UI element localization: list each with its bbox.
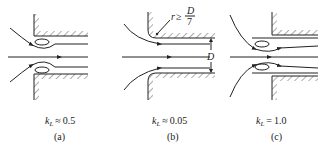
caption-a: (a) bbox=[54, 131, 65, 143]
vortex-top bbox=[255, 41, 269, 47]
panel-a: kL≈0.5 (a) bbox=[8, 14, 88, 143]
vortex-top bbox=[35, 39, 49, 45]
loss-coefficient-c: kL=1.0 bbox=[256, 115, 287, 128]
radius-leader bbox=[157, 20, 170, 34]
caption-c: (c) bbox=[271, 131, 282, 143]
wall-hatch-top bbox=[34, 14, 88, 36]
panel-c: kL=1.0 (c) bbox=[230, 12, 318, 143]
loss-coefficient-b: kL≈0.05 bbox=[152, 115, 187, 128]
radius-dot bbox=[156, 33, 158, 35]
vortex-bottom bbox=[35, 67, 49, 73]
loss-coefficient-a: kL≈0.5 bbox=[45, 115, 75, 128]
dimension-label: D bbox=[206, 51, 215, 62]
dim-arrow-top bbox=[209, 38, 213, 42]
radius-fraction-num: D bbox=[186, 5, 195, 16]
wall-hatch-bottom bbox=[148, 73, 215, 100]
panel-b: r≥ D 7 D kL≈0.05 (b) bbox=[122, 5, 215, 143]
radius-label: r≥ bbox=[171, 11, 182, 22]
wall-hatch-bottom bbox=[34, 74, 88, 100]
caption-b: (b) bbox=[167, 131, 179, 143]
dim-arrow-bottom bbox=[209, 69, 213, 73]
radius-fraction-den: 7 bbox=[187, 16, 192, 27]
vortex-bottom bbox=[255, 64, 269, 70]
pipe-entrance-diagram: kL≈0.5 (a) r≥ D 7 D kL≈0.05 (b) bbox=[0, 0, 320, 145]
wall-hatch-bottom bbox=[272, 76, 318, 100]
wall-hatch-top bbox=[272, 12, 318, 35]
streamline-lower bbox=[124, 68, 210, 90]
